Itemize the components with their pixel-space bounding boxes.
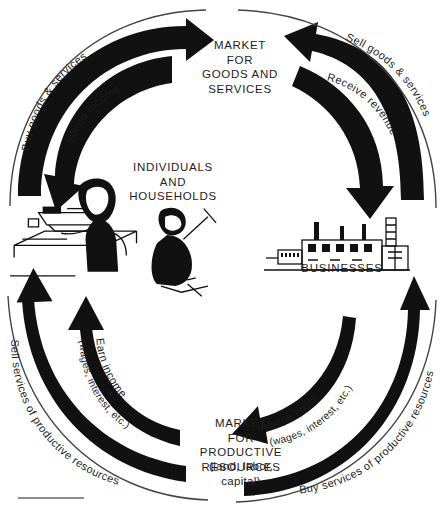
market-for-goods-and-services-label: MARKET FOR GOODS AND SERVICES — [178, 38, 302, 96]
footer-rule — [18, 497, 84, 499]
market-for-productive-resources-sublabel: (land, labor, capital) — [178, 459, 304, 488]
businesses-label: BUSINESSES — [272, 262, 412, 274]
circular-flow-diagram: Buy goods & services Spend income Sell g… — [0, 0, 444, 517]
individuals-and-households-label: INDIVIDUALS AND HOUSEHOLDS — [108, 160, 238, 204]
